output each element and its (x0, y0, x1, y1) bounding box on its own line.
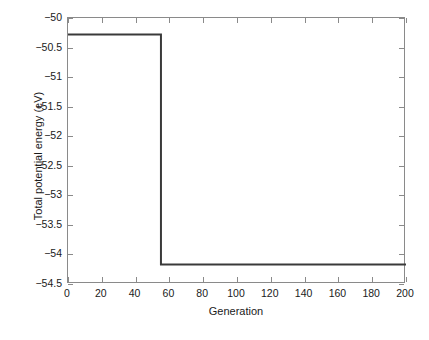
y-tick-mark-right (399, 48, 404, 49)
x-tick-label: 80 (196, 287, 208, 299)
x-tick-mark (102, 277, 103, 282)
y-tick-mark (68, 195, 73, 196)
y-tick-label: −51.5 (0, 100, 62, 112)
x-axis-label: Generation (67, 305, 405, 317)
x-tick-mark (372, 277, 373, 282)
y-tick-mark (68, 107, 73, 108)
y-tick-mark (68, 284, 73, 285)
x-tick-mark-top (338, 18, 339, 23)
x-tick-label: 0 (64, 287, 70, 299)
y-tick-label: −54.5 (0, 277, 62, 289)
y-tick-mark-right (399, 195, 404, 196)
x-tick-label: 40 (129, 287, 141, 299)
x-tick-mark-top (305, 18, 306, 23)
x-tick-mark-top (406, 18, 407, 23)
y-tick-label: −50.5 (0, 41, 62, 53)
y-tick-mark-right (399, 18, 404, 19)
y-tick-mark (68, 18, 73, 19)
y-tick-mark (68, 166, 73, 167)
y-tick-mark-right (399, 77, 404, 78)
y-tick-mark (68, 77, 73, 78)
y-tick-mark (68, 254, 73, 255)
y-tick-label: −52 (0, 129, 62, 141)
x-tick-label: 20 (95, 287, 107, 299)
x-tick-mark-top (372, 18, 373, 23)
x-tick-mark-top (237, 18, 238, 23)
y-tick-label: −53.5 (0, 218, 62, 230)
y-tick-mark-right (399, 107, 404, 108)
series-total-potential-energy (68, 35, 406, 265)
x-tick-mark (68, 277, 69, 282)
x-tick-mark (169, 277, 170, 282)
x-tick-label: 60 (163, 287, 175, 299)
y-tick-label: −52.5 (0, 159, 62, 171)
x-tick-mark (305, 277, 306, 282)
x-tick-label: 200 (396, 287, 414, 299)
x-tick-mark (237, 277, 238, 282)
x-tick-label: 180 (362, 287, 380, 299)
y-tick-mark-right (399, 136, 404, 137)
figure-canvas: Total potential energy (eV) −50−50.5−51−… (0, 0, 429, 340)
x-tick-mark-top (169, 18, 170, 23)
y-tick-label: −53 (0, 188, 62, 200)
x-tick-mark-top (102, 18, 103, 23)
x-tick-mark-top (271, 18, 272, 23)
x-tick-mark (203, 277, 204, 282)
y-tick-mark (68, 225, 73, 226)
x-tick-mark (406, 277, 407, 282)
y-tick-mark-right (399, 284, 404, 285)
x-tick-mark (271, 277, 272, 282)
x-tick-label: 100 (227, 287, 245, 299)
y-tick-mark (68, 48, 73, 49)
y-tick-mark-right (399, 254, 404, 255)
x-tick-mark (136, 277, 137, 282)
y-tick-mark-right (399, 166, 404, 167)
y-tick-mark-right (399, 225, 404, 226)
y-tick-label: −54 (0, 247, 62, 259)
x-tick-mark (338, 277, 339, 282)
x-tick-label: 120 (261, 287, 279, 299)
x-tick-mark-top (136, 18, 137, 23)
y-tick-label: −50 (0, 11, 62, 23)
x-tick-label: 160 (329, 287, 347, 299)
y-tick-label: −51 (0, 70, 62, 82)
plot-area (67, 17, 405, 283)
data-line-svg (68, 18, 406, 284)
x-tick-mark-top (203, 18, 204, 23)
x-tick-label: 140 (295, 287, 313, 299)
y-tick-mark (68, 136, 73, 137)
